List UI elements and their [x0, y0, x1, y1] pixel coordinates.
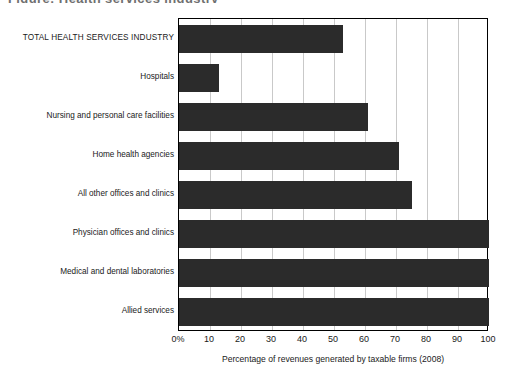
x-tick-label-80: 80 [421, 333, 431, 345]
category-label: Allied services [0, 306, 174, 316]
bar [179, 259, 489, 287]
x-tick-label-0: 0% [171, 333, 184, 345]
category-label: Medical and dental laboratories [0, 267, 174, 277]
bar-chart-figure: Figure: Health services industry TOTAL H… [0, 0, 511, 376]
plot-area [178, 18, 488, 331]
x-axis-caption: Percentage of revenues generated by taxa… [178, 354, 488, 364]
x-tick-label-20: 20 [235, 333, 245, 345]
bar-group [179, 19, 487, 330]
category-label: TOTAL HEALTH SERVICES INDUSTRY [0, 33, 174, 43]
cropped-title-remnant: Figure: Health services industry [8, 0, 308, 3]
x-tick-label-60: 60 [359, 333, 369, 345]
category-label: Nursing and personal care facilities [0, 111, 174, 121]
category-label-column: TOTAL HEALTH SERVICES INDUSTRYHospitalsN… [0, 18, 174, 331]
bar [179, 25, 343, 53]
x-tick-label-100: 100 [480, 333, 495, 345]
x-tick-label-30: 30 [266, 333, 276, 345]
x-tick-label-70: 70 [390, 333, 400, 345]
category-label: Hospitals [0, 72, 174, 82]
bar [179, 220, 489, 248]
category-label: Physician offices and clinics [0, 228, 174, 238]
x-tick-label-50: 50 [328, 333, 338, 345]
bar [179, 64, 219, 92]
category-label: Home health agencies [0, 150, 174, 160]
bar [179, 142, 399, 170]
x-tick-label-40: 40 [297, 333, 307, 345]
bar [179, 181, 412, 209]
x-tick-label-90: 90 [452, 333, 462, 345]
category-label: All other offices and clinics [0, 189, 174, 199]
bar [179, 103, 368, 131]
x-axis-tick-labels: 0%102030405060708090100 [178, 333, 488, 349]
bar [179, 298, 489, 326]
x-tick-label-10: 10 [204, 333, 214, 345]
